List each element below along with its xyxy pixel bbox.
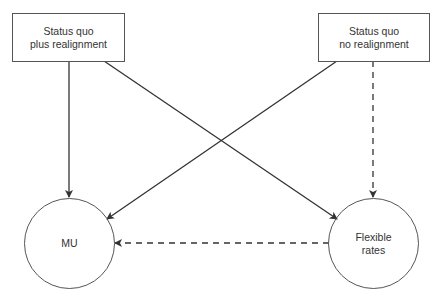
node-mu: MU <box>24 198 115 289</box>
node-label-line: plus realignment <box>30 38 107 51</box>
node-label-line: MU <box>61 237 77 250</box>
node-label-line: Status quo <box>43 25 93 38</box>
node-status-quo-no-realignment: Status quo no realignment <box>318 13 430 62</box>
node-status-quo-plus-realignment: Status quo plus realignment <box>12 13 125 62</box>
node-label-line: rates <box>362 244 385 257</box>
node-label-line: no realignment <box>339 38 408 51</box>
node-label-line: Flexible <box>355 231 391 244</box>
node-label-line: Status quo <box>349 25 399 38</box>
node-flexible-rates: Flexible rates <box>328 198 419 289</box>
